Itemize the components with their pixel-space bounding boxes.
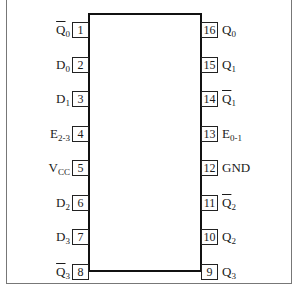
pin-5-label: VCC [49, 160, 70, 176]
pin-10-label: Q2 [222, 229, 236, 245]
pin-9-box: 9 [201, 264, 218, 280]
pin-9-label: Q3 [222, 264, 236, 280]
pin-12-label: GND [222, 160, 250, 176]
pin-3-label: D1 [56, 91, 70, 107]
pin-10-box: 10 [201, 229, 218, 245]
pin-8-label: Q3 [56, 264, 70, 280]
pin-16-label: Q0 [222, 22, 236, 38]
pin-15-label: Q1 [222, 57, 236, 73]
pin-4-box: 4 [72, 126, 89, 142]
pin-14-label: Q1 [222, 91, 236, 107]
pin-11-label: Q2 [222, 195, 236, 211]
pin-3-box: 3 [72, 91, 89, 107]
pin-15-box: 15 [201, 57, 218, 73]
pin-12-box: 12 [201, 160, 218, 176]
pin-6-box: 6 [72, 195, 89, 211]
ic-body [88, 13, 202, 272]
pin-16-box: 16 [201, 22, 218, 38]
pin-1-label: Q0 [56, 22, 70, 38]
pin-1-box: 1 [72, 22, 89, 38]
pin-7-box: 7 [72, 229, 89, 245]
pin-2-label: D0 [56, 57, 70, 73]
pin-6-label: D2 [56, 195, 70, 211]
pin-5-box: 5 [72, 160, 89, 176]
pin-13-label: E0-1 [222, 126, 242, 142]
pin-7-label: D3 [56, 229, 70, 245]
pin-8-box: 8 [72, 264, 89, 280]
pin-11-box: 11 [201, 195, 218, 211]
pin-13-box: 13 [201, 126, 218, 142]
pin-4-label: E2-3 [50, 126, 70, 142]
pin-14-box: 14 [201, 91, 218, 107]
pin-2-box: 2 [72, 57, 89, 73]
